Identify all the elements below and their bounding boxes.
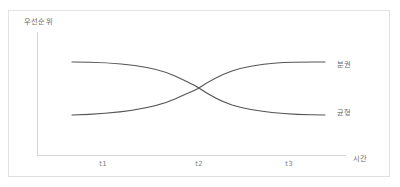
x-tick-label-t2: t2 <box>195 161 203 168</box>
series-label-lower: 균형 <box>337 109 351 116</box>
series-line-upper <box>72 62 325 115</box>
plot-area <box>0 0 400 187</box>
series-label-upper: 분권 <box>337 61 351 68</box>
x-axis-label: 시간 <box>353 155 367 162</box>
y-axis-label: 우선순위 <box>24 18 53 25</box>
chart-figure: 우선순위 시간 t1 t2 t3 분권 균형 <box>0 0 400 187</box>
x-tick-label-t3: t3 <box>285 161 293 168</box>
x-tick-label-t1: t1 <box>99 161 107 168</box>
